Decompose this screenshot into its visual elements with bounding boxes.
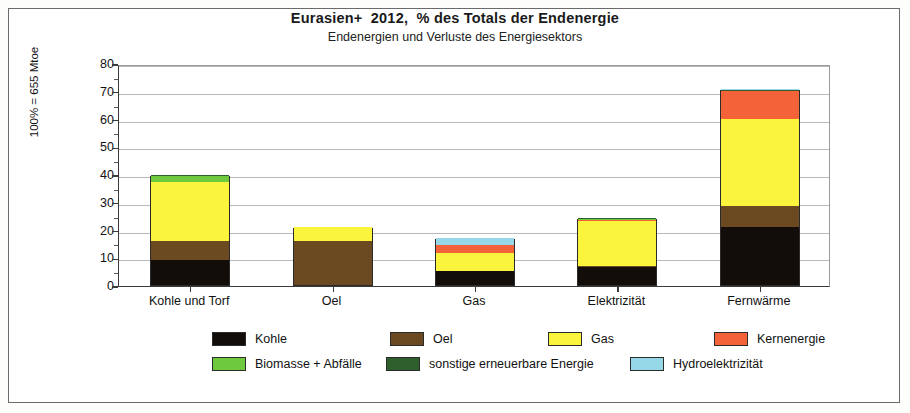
legend-swatch <box>386 357 420 371</box>
bar-segment[interactable] <box>436 271 514 285</box>
x-tick-label: Fernwärme <box>669 294 849 308</box>
stacked-bar[interactable] <box>577 219 657 286</box>
legend-label: Kohle <box>255 332 287 346</box>
chart-legend: KohleOelGasKernenergieBiomasse + Abfälle… <box>0 326 910 376</box>
legend-swatch <box>548 332 582 346</box>
y-tick-label: 20 <box>80 225 114 238</box>
y-axis-tick-labels: 01020304050607080 <box>74 65 114 287</box>
bar-column <box>435 66 515 286</box>
y-tick-label: 80 <box>80 58 114 71</box>
chart-page: Eurasien+ 2012, % des Totals der Endener… <box>0 0 910 413</box>
bar-column <box>150 66 230 286</box>
x-tick-mark <box>760 286 761 292</box>
x-tick-mark <box>475 286 476 292</box>
bar-segment[interactable] <box>578 218 656 220</box>
y-tick-label: 0 <box>80 280 114 293</box>
bar-segment[interactable] <box>151 176 229 182</box>
bar-segment[interactable] <box>436 245 514 253</box>
bar-segment[interactable] <box>578 220 656 265</box>
legend-label: Hydroelektrizität <box>673 357 763 371</box>
y-tick-label: 70 <box>80 86 114 99</box>
bar-column <box>293 66 373 286</box>
legend-label: sonstige erneuerbare Energie <box>429 357 594 371</box>
y-tick-label: 60 <box>80 114 114 127</box>
bar-segment[interactable] <box>151 241 229 260</box>
bar-segment[interactable] <box>721 206 799 227</box>
bar-segment[interactable] <box>436 238 514 245</box>
legend-label: Oel <box>433 332 452 346</box>
bar-segment[interactable] <box>294 227 372 241</box>
legend-label: Gas <box>591 332 614 346</box>
legend-item[interactable]: Gas <box>548 326 614 351</box>
legend-swatch <box>390 332 424 346</box>
bar-segment[interactable] <box>721 227 799 285</box>
bar-segment[interactable] <box>578 220 656 221</box>
plot-area <box>118 65 830 287</box>
y-tick-label: 40 <box>80 169 114 182</box>
legend-row: Biomasse + Abfällesonstige erneuerbare E… <box>0 351 910 376</box>
legend-row: KohleOelGasKernenergie <box>0 326 910 351</box>
x-tick-mark <box>190 286 191 292</box>
bar-segment[interactable] <box>721 91 799 119</box>
bar-segment[interactable] <box>436 253 514 271</box>
y-tick-label: 30 <box>80 197 114 210</box>
bar-segment[interactable] <box>578 219 656 220</box>
legend-swatch <box>212 357 246 371</box>
legend-swatch <box>212 332 246 346</box>
bar-segment[interactable] <box>294 241 372 285</box>
bar-segment[interactable] <box>578 266 656 267</box>
bar-segment[interactable] <box>151 175 229 176</box>
legend-item[interactable]: Kernenergie <box>714 326 825 351</box>
legend-item[interactable]: Biomasse + Abfälle <box>212 351 362 376</box>
bar-segment[interactable] <box>721 89 799 91</box>
legend-item[interactable]: sonstige erneuerbare Energie <box>386 351 594 376</box>
stacked-bar[interactable] <box>293 228 373 286</box>
stacked-bar[interactable] <box>150 176 230 286</box>
y-tick-label: 10 <box>80 252 114 265</box>
bar-column <box>577 66 657 286</box>
legend-swatch <box>630 357 664 371</box>
legend-label: Biomasse + Abfälle <box>255 357 362 371</box>
y-tick-label: 50 <box>80 141 114 154</box>
x-tick-mark <box>333 286 334 292</box>
bar-segment[interactable] <box>151 260 229 285</box>
legend-item[interactable]: Hydroelektrizität <box>630 351 763 376</box>
x-tick-mark <box>617 286 618 292</box>
bar-column <box>720 66 800 286</box>
bar-segment[interactable] <box>721 119 799 206</box>
legend-label: Kernenergie <box>757 332 825 346</box>
bar-segment[interactable] <box>151 182 229 241</box>
bar-segment[interactable] <box>578 267 656 285</box>
stacked-bar[interactable] <box>720 90 800 286</box>
legend-swatch <box>714 332 748 346</box>
legend-item[interactable]: Kohle <box>212 326 287 351</box>
stacked-bar[interactable] <box>435 239 515 286</box>
y-axis-title: 100% = 655 Mtoe <box>28 12 40 172</box>
legend-item[interactable]: Oel <box>390 326 452 351</box>
